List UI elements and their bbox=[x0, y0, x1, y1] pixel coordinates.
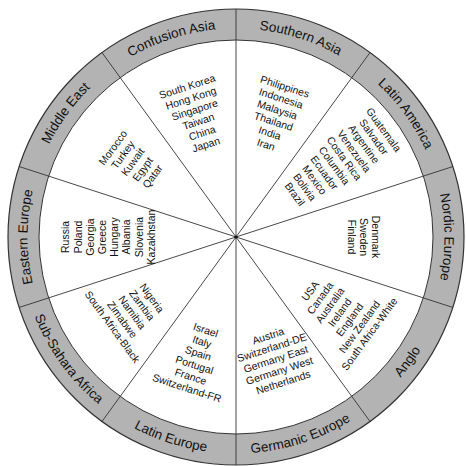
country-name: Denmark bbox=[370, 216, 382, 259]
country-name: Hungary bbox=[108, 216, 120, 256]
country-list-nordic-europe: DenmarkSwedenFinland bbox=[346, 216, 382, 259]
country-name: Poland bbox=[72, 220, 84, 253]
center-dot bbox=[234, 235, 237, 238]
country-name: Sweden bbox=[358, 218, 370, 256]
country-name: Finland bbox=[346, 220, 358, 255]
culture-cluster-wheel: Southern AsiaLatin AmericaNordic EuropeA… bbox=[0, 0, 466, 466]
country-name: Georgia bbox=[84, 218, 96, 256]
country-name: Slovenia bbox=[133, 217, 145, 257]
country-name: Kazakhstan bbox=[145, 209, 157, 264]
country-name: Russia bbox=[59, 221, 71, 253]
country-name: Greece bbox=[96, 220, 108, 255]
country-name: Albania bbox=[120, 219, 132, 254]
